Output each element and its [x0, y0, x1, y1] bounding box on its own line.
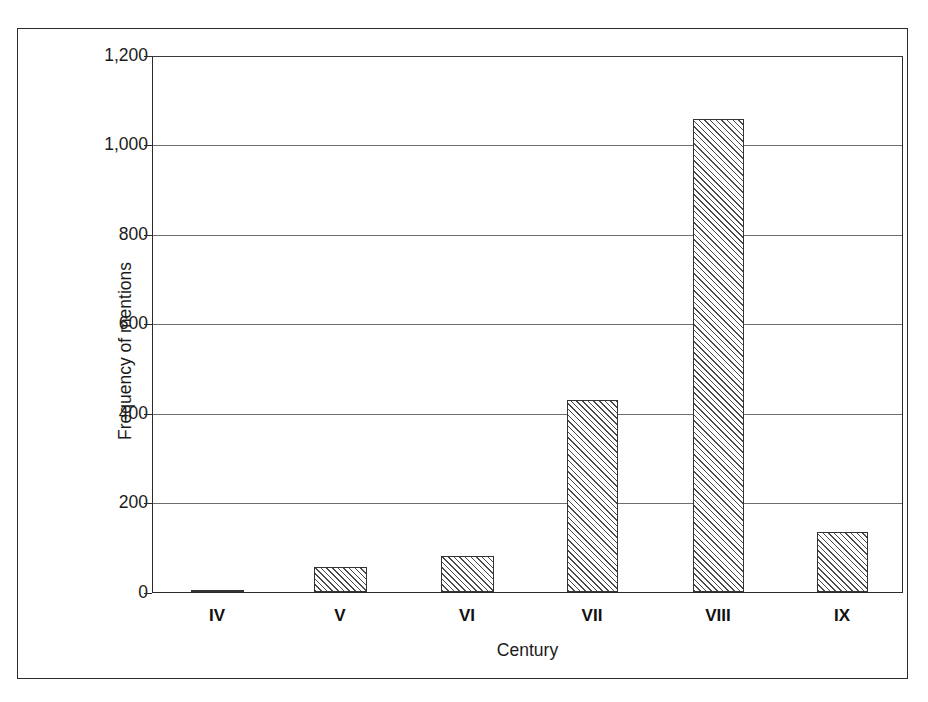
y-tick-label-600: 600 [52, 315, 148, 333]
gridline-400 [153, 414, 902, 415]
x-tick-label-IV: IV [177, 606, 257, 626]
y-tick-label-1200: 1,200 [52, 47, 148, 65]
y-tick-mark-1000 [144, 145, 152, 146]
x-tick-label-VIII: VIII [678, 606, 758, 626]
bar-IV[interactable] [191, 590, 244, 592]
gridline-200 [153, 503, 902, 504]
y-tick-label-200: 200 [52, 494, 148, 512]
y-tick-mark-200 [144, 503, 152, 504]
plot-area [152, 56, 903, 593]
x-tick-label-IX: IX [802, 606, 882, 626]
gridline-600 [153, 324, 902, 325]
y-tick-label-0: 0 [52, 584, 148, 602]
bar-VII[interactable] [567, 400, 618, 592]
y-tick-mark-600 [144, 324, 152, 325]
y-tick-mark-0 [144, 593, 152, 594]
y-tick-mark-1200 [144, 56, 152, 57]
bar-VI[interactable] [441, 556, 494, 592]
y-tick-label-800: 800 [52, 226, 148, 244]
x-tick-label-VI: VI [427, 606, 507, 626]
x-tick-label-V: V [300, 606, 380, 626]
y-tick-mark-800 [144, 235, 152, 236]
gridline-800 [153, 235, 902, 236]
gridline-1000 [153, 145, 902, 146]
y-tick-label-400: 400 [52, 405, 148, 423]
x-axis-title: Century [152, 640, 903, 661]
y-tick-label-1000: 1,000 [52, 136, 148, 154]
bar-IX[interactable] [817, 532, 868, 592]
y-tick-mark-400 [144, 414, 152, 415]
bar-VIII[interactable] [693, 119, 744, 592]
bar-V[interactable] [314, 567, 367, 592]
x-tick-label-VII: VII [552, 606, 632, 626]
bar-chart-figure: Frequency of mentions 1,200 1,000 800 60… [0, 0, 928, 702]
